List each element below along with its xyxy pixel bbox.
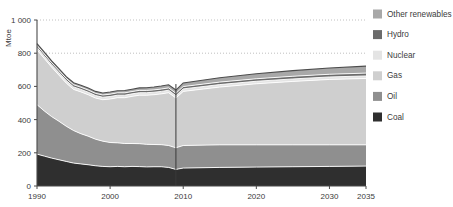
y-axis-ticks: 02004006008001 000 — [11, 16, 37, 191]
y-axis-title: Mtoe — [4, 29, 13, 47]
area-series-gas — [37, 50, 366, 148]
y-tick-label: 1 000 — [11, 16, 32, 25]
stacked-area-chart: 02004006008001 000 199020002010202020302… — [0, 0, 453, 207]
x-tick-label: 2000 — [101, 192, 119, 201]
legend-swatch-coal — [373, 113, 382, 122]
y-tick-label: 200 — [18, 149, 32, 158]
y-tick-label: 600 — [18, 82, 32, 91]
x-tick-label: 2010 — [174, 192, 192, 201]
legend-swatch-oil — [373, 92, 382, 101]
legend-swatch-nuclear — [373, 51, 382, 60]
legend-swatch-other-renewables — [373, 10, 382, 19]
x-tick-label: 2020 — [247, 192, 265, 201]
legend-label-nuclear: Nuclear — [387, 51, 415, 60]
x-tick-label: 2035 — [357, 192, 375, 201]
x-axis-ticks: 199020002010202020302035 — [28, 186, 375, 201]
legend-label-oil: Oil — [387, 92, 397, 101]
legend-label-hydro: Hydro — [387, 30, 409, 39]
x-tick-label: 2030 — [321, 192, 339, 201]
y-axis-label: Mtoe — [4, 29, 13, 47]
y-tick-label: 400 — [18, 116, 32, 125]
y-tick-label: 800 — [18, 49, 32, 58]
legend-swatch-gas — [373, 71, 382, 80]
y-tick-label: 0 — [27, 182, 32, 191]
legend-label-coal: Coal — [387, 113, 404, 122]
legend: Other renewablesHydroNuclearGasOilCoal — [373, 10, 452, 122]
gridlines — [37, 20, 366, 53]
legend-swatch-hydro — [373, 30, 382, 39]
legend-label-gas: Gas — [387, 71, 402, 80]
x-tick-label: 1990 — [28, 192, 46, 201]
legend-label-other-renewables: Other renewables — [387, 10, 452, 19]
